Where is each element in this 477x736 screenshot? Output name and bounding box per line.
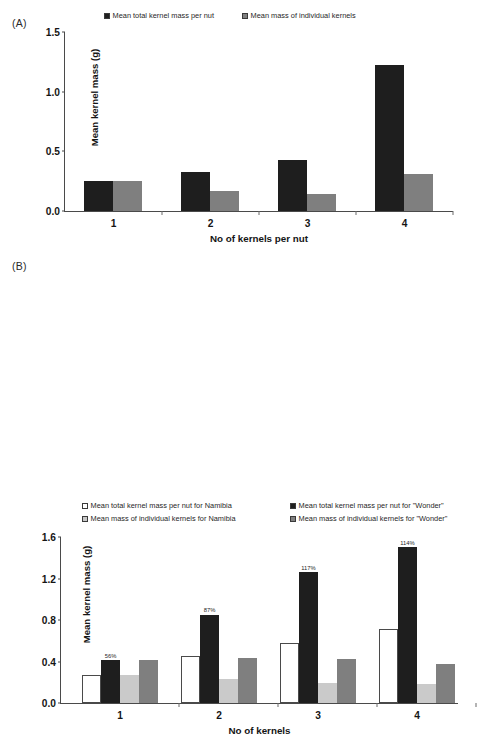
y-axis-title-a: Mean kernel mass (g) — [89, 43, 100, 153]
bar-a-g3-total — [278, 160, 307, 211]
panel-a: (A) Mean total kernel mass per nut Mean … — [0, 0, 469, 240]
plot-area-a: Mean kernel mass (g) 0.0 0.5 1.0 1.5 1 2… — [64, 32, 453, 212]
x-tick-label-a-1: 1 — [111, 218, 117, 229]
x-tick-label-b-1: 1 — [117, 710, 123, 721]
y-tick-label-b-2: 0.8 — [42, 615, 56, 626]
bar-a-g2-total — [181, 172, 210, 211]
legend-swatch-dark-gray-b — [290, 516, 296, 522]
x-tick-label-b-2: 2 — [216, 710, 222, 721]
bar-b-g2-individual-wonder — [238, 658, 257, 703]
x-tick-mark-b-3 — [377, 703, 378, 707]
legend-entry-total-namibia: Mean total kernel mass per nut for Namib… — [82, 501, 252, 511]
bar-b-g3-total-wonder: 117% — [299, 572, 318, 703]
bar-a-g1-individual — [113, 181, 142, 211]
bar-annotation-g4: 114% — [400, 540, 414, 546]
bar-annotation-g2: 87% — [204, 607, 216, 613]
x-tick-mark-a-4 — [453, 211, 454, 215]
bar-b-g1-total-namibia — [82, 675, 101, 703]
plot-area-b: Mean kernel mass (g) 0.0 0.4 0.8 1.2 1.6… — [60, 537, 458, 704]
x-tick-mark-a-2 — [259, 211, 260, 215]
legend-swatch-light-gray — [82, 516, 88, 522]
bar-b-g3-individual-namibia — [318, 683, 337, 703]
y-tick-mark-b-3 — [58, 578, 62, 579]
bar-b-g1-total-wonder: 56% — [101, 660, 120, 703]
x-tick-mark-b-1 — [179, 703, 180, 707]
y-tick-label-b-4: 1.6 — [42, 532, 56, 543]
legend-label-individual-namibia: Mean mass of individual kernels for Nami… — [91, 514, 236, 524]
x-tick-mark-a-1 — [162, 211, 163, 215]
x-tick-label-a-3: 3 — [305, 218, 311, 229]
x-tick-label-a-2: 2 — [208, 218, 214, 229]
bar-b-g1-individual-wonder — [139, 660, 158, 703]
x-tick-label-b-4: 4 — [414, 710, 420, 721]
bar-b-g4-total-wonder: 114% — [398, 547, 417, 703]
bar-b-g4-individual-wonder — [436, 664, 455, 703]
legend-swatch-dark-gray — [242, 13, 248, 19]
bar-b-g2-total-namibia — [181, 656, 200, 703]
legend-entry-individual-wonder: Mean mass of individual kernels for "Won… — [290, 514, 447, 524]
x-tick-mark-b-4 — [476, 703, 477, 707]
bar-b-g2-individual-namibia — [219, 679, 238, 703]
panel-b-tag: (B) — [12, 260, 27, 272]
bar-a-g4-total — [375, 65, 404, 211]
legend-label-total-wonder: Mean total kernel mass per nut for "Wond… — [299, 501, 444, 511]
bar-b-g3-individual-wonder — [337, 659, 356, 703]
legend-panel-a: Mean total kernel mass per nut Mean mass… — [104, 11, 356, 22]
y-tick-mark-3 — [62, 32, 66, 33]
legend-entry-individual-mass: Mean mass of individual kernels — [242, 11, 356, 21]
y-tick-mark-b-0 — [58, 703, 62, 704]
y-tick-label-b-1: 0.4 — [42, 656, 56, 667]
y-tick-label-0: 0.0 — [46, 206, 60, 217]
legend-label-total-namibia: Mean total kernel mass per nut for Namib… — [91, 501, 232, 511]
y-tick-mark-2 — [62, 91, 66, 92]
y-axis-title-b: Mean kernel mass (g) — [81, 540, 92, 650]
bar-annotation-g1: 56% — [105, 653, 117, 659]
legend-swatch-black-b — [290, 503, 296, 509]
legend-label-total-mass: Mean total kernel mass per nut — [113, 11, 214, 21]
legend-label-individual-wonder: Mean mass of individual kernels for "Won… — [299, 514, 448, 524]
legend-swatch-white — [82, 503, 88, 509]
y-tick-mark-b-1 — [58, 661, 62, 662]
bar-a-g1-total — [84, 181, 113, 211]
x-tick-label-b-3: 3 — [315, 710, 321, 721]
bar-b-g3-total-namibia — [280, 643, 299, 703]
y-tick-mark-0 — [62, 211, 66, 212]
bar-b-g1-individual-namibia — [120, 675, 139, 703]
legend-swatch-black — [104, 13, 110, 19]
x-tick-mark-b-2 — [278, 703, 279, 707]
y-tick-label-2: 1.0 — [46, 86, 60, 97]
bar-annotation-g3: 117% — [301, 565, 315, 571]
bar-a-g3-individual — [307, 194, 336, 211]
legend-panel-b: Mean total kernel mass per nut for Namib… — [82, 501, 447, 524]
panel-b: (B) Mean total kernel mass per nut for N… — [0, 243, 469, 503]
x-axis-title-b: No of kernels — [61, 725, 458, 736]
panel-a-tag: (A) — [12, 17, 27, 29]
bar-a-g4-individual — [404, 174, 433, 211]
y-tick-label-1: 0.5 — [46, 146, 60, 157]
y-tick-mark-b-4 — [58, 537, 62, 538]
legend-entry-total-wonder: Mean total kernel mass per nut for "Wond… — [290, 501, 447, 511]
bar-b-g4-individual-namibia — [417, 684, 436, 703]
legend-entry-individual-namibia: Mean mass of individual kernels for Nami… — [82, 514, 252, 524]
bar-b-g2-total-wonder: 87% — [200, 615, 219, 703]
y-tick-label-b-3: 1.2 — [42, 573, 56, 584]
y-tick-mark-b-2 — [58, 620, 62, 621]
y-tick-label-3: 1.5 — [46, 27, 60, 38]
x-tick-label-a-4: 4 — [402, 218, 408, 229]
legend-entry-total-mass: Mean total kernel mass per nut — [104, 11, 214, 21]
y-tick-label-b-0: 0.0 — [42, 698, 56, 709]
x-tick-mark-a-3 — [356, 211, 357, 215]
y-tick-mark-1 — [62, 151, 66, 152]
legend-label-individual-mass: Mean mass of individual kernels — [251, 11, 356, 21]
bar-a-g2-individual — [210, 191, 239, 211]
bar-b-g4-total-namibia — [379, 629, 398, 703]
